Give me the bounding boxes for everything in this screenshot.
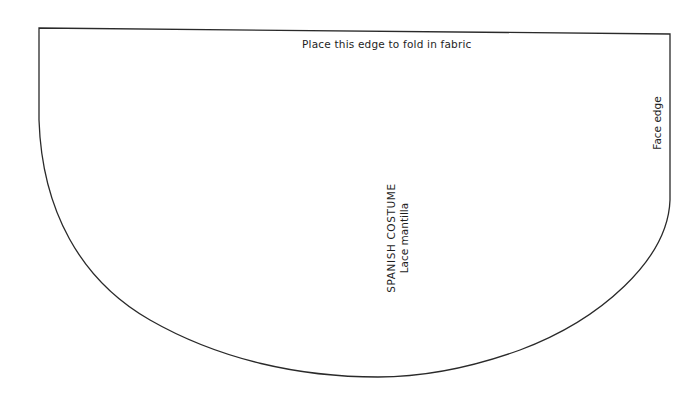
pattern-outline (0, 0, 692, 403)
pattern-title-block: SPANISH COSTUME Lace mantilla (385, 183, 425, 293)
pattern-piece-outline (39, 28, 670, 377)
face-edge-label: Face edge (651, 93, 665, 153)
pattern-subtitle: Lace mantilla (398, 183, 411, 293)
pattern-title: SPANISH COSTUME (385, 183, 398, 293)
fold-edge-label: Place this edge to fold in fabric (302, 38, 472, 50)
